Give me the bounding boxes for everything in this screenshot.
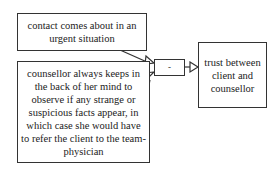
operator-symbol: - — [168, 61, 171, 74]
premise-box-urgent-contact: contact comes about in an urgent situati… — [17, 13, 147, 51]
operator-box: - — [154, 59, 185, 76]
conclusion-text: trust between client and counsellor — [203, 56, 262, 95]
conclusion-box-trust: trust between client and counsellor — [198, 42, 267, 108]
premise-text: counsellor always keeps in the back of h… — [21, 67, 146, 158]
premise-box-counsellor-observe: counsellor always keeps in the back of h… — [17, 61, 150, 163]
premise-text: contact comes about in an urgent situati… — [24, 19, 140, 45]
arrowhead-icon — [190, 62, 198, 72]
